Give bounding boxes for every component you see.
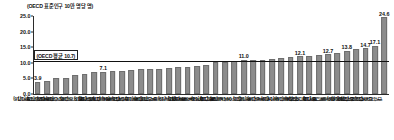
bar-slot: [174, 16, 183, 94]
bar-slot: 7.1: [99, 16, 108, 94]
x-axis-category-group: 그리스('16)튀르키예('17)콜롬비아('18)이스라엘('18)이탈리아(…: [33, 96, 389, 140]
bar-value-label: 11.0: [239, 53, 249, 59]
x-axis-category-slot: 브라질('17): [145, 96, 154, 140]
bar[interactable]: [91, 72, 97, 94]
bar[interactable]: [232, 61, 238, 94]
y-axis-tick-label: 15.0: [20, 44, 31, 50]
bar[interactable]: [353, 49, 359, 94]
bar-slot: 24.6: [380, 16, 389, 94]
bar-slot: 17.1: [370, 16, 379, 94]
bar[interactable]: [128, 70, 134, 94]
bar[interactable]: [222, 62, 228, 94]
x-axis-category-slot: 슬로베니아('19): [333, 96, 342, 140]
bar-group: 3.97.111.012.112.713.814.717.124.6: [33, 16, 389, 94]
bar[interactable]: [157, 69, 163, 94]
bar[interactable]: [110, 71, 116, 94]
x-axis-category-slot: 오스트리아('19): [230, 96, 239, 140]
bar-slot: [258, 16, 267, 94]
x-axis-category-slot: 벨기에('17): [323, 96, 332, 140]
bar-slot: [145, 16, 154, 94]
bar[interactable]: [100, 72, 106, 94]
y-axis-unit-caption: (OECD 표준인구 10만 명당 명): [27, 2, 93, 9]
bar-slot: [127, 16, 136, 94]
bar[interactable]: [166, 68, 172, 94]
bar[interactable]: [44, 81, 50, 94]
bar[interactable]: [175, 67, 181, 94]
oecd-average-line: [33, 61, 389, 62]
bar-slot: [89, 16, 98, 94]
bar-slot: [155, 16, 164, 94]
bar[interactable]: [54, 78, 60, 94]
x-axis-category-slot: 코스타리카('18): [108, 96, 117, 140]
bar[interactable]: [363, 48, 369, 94]
x-axis-category-slot: 영국('18): [89, 96, 98, 140]
bar[interactable]: [138, 69, 144, 94]
bar-slot: 14.7: [361, 16, 370, 94]
bar[interactable]: [269, 59, 275, 94]
bar-slot: [164, 16, 173, 94]
bar-slot: [305, 16, 314, 94]
plot-area: 0.05.010.015.020.025.0 3.97.111.012.112.…: [33, 16, 389, 94]
x-axis-category-slot: 멕시코('19): [80, 96, 89, 140]
bar[interactable]: [344, 51, 350, 94]
x-axis-category-slot: 호주('19): [277, 96, 286, 140]
bar[interactable]: [35, 82, 41, 94]
x-axis-category-slot: 프랑스('16): [258, 96, 267, 140]
x-axis-line: [33, 94, 389, 95]
x-axis-category-slot: 캐나다('18): [211, 96, 220, 140]
bar-value-label: 17.1: [370, 39, 381, 45]
x-axis-category-label: 대한민국('19): [355, 96, 382, 101]
bar[interactable]: [372, 46, 378, 94]
bar[interactable]: [278, 58, 284, 94]
x-axis-category-slot: 칠레('18): [183, 96, 192, 140]
bar-slot: [136, 16, 145, 94]
bar-slot: [314, 16, 323, 94]
bar[interactable]: [241, 60, 247, 94]
bar[interactable]: [185, 67, 191, 94]
bar[interactable]: [260, 60, 266, 94]
x-axis-category-slot: 그리스('16): [33, 96, 42, 140]
bar[interactable]: [381, 17, 387, 94]
x-axis-category-slot: 이스라엘('18): [61, 96, 70, 140]
y-axis-tick-label: 5.0: [23, 75, 31, 81]
bar-slot: [211, 16, 220, 94]
x-axis-category-slot: 라트비아('19): [361, 96, 370, 140]
bar[interactable]: [72, 75, 78, 94]
bar-slot: [80, 16, 89, 94]
bar[interactable]: [147, 69, 153, 94]
bar[interactable]: [250, 60, 256, 94]
bar[interactable]: [119, 71, 125, 94]
x-axis-category-slot: 헝가리('19): [352, 96, 361, 140]
bar[interactable]: [82, 74, 88, 94]
x-axis-category-slot: 뉴질랜드('17): [192, 96, 201, 140]
bar-slot: [248, 16, 257, 94]
bar[interactable]: [213, 62, 219, 94]
bar-slot: 12.7: [323, 16, 332, 94]
bar-value-label: 13.8: [342, 44, 353, 50]
bar[interactable]: [297, 56, 303, 94]
bar[interactable]: [335, 53, 341, 94]
bar-value-label: 3.9: [34, 75, 42, 81]
bar-value-label: 12.7: [323, 48, 334, 54]
bar-slot: [267, 16, 276, 94]
bar-value-label: 24.6: [379, 11, 390, 17]
bar[interactable]: [63, 78, 69, 94]
bar-slot: 11.0: [239, 16, 248, 94]
bar-slot: [192, 16, 201, 94]
bar[interactable]: [194, 66, 200, 94]
x-axis-category-slot: 체코('19): [248, 96, 257, 140]
x-axis-category-slot: 네덜란드('19): [127, 96, 136, 140]
oecd-suicide-rate-bar-chart: (OECD 표준인구 10만 명당 명) 0.05.010.015.020.02…: [0, 0, 394, 140]
bar[interactable]: [288, 57, 294, 94]
x-axis-category-slot: 룩셈부르크('19): [202, 96, 211, 140]
bar-slot: [220, 16, 229, 94]
x-axis-category-slot: 스웨덴('18): [267, 96, 276, 140]
bar-slot: [117, 16, 126, 94]
x-axis-category-slot: 아이슬란드('18): [239, 96, 248, 140]
bar-slot: [202, 16, 211, 94]
bar-slot: 12.1: [295, 16, 304, 94]
bar-slot: [333, 16, 342, 94]
x-axis-category-slot: 에스토니아('19): [314, 96, 323, 140]
bar[interactable]: [203, 65, 209, 94]
bar-slot: [108, 16, 117, 94]
